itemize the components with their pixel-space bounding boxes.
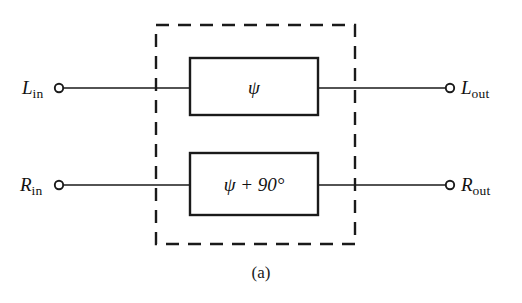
block-top-label: ψ bbox=[190, 78, 318, 97]
terminal-symbol-l-in: L bbox=[22, 77, 33, 98]
terminal-subscript-r-in: in bbox=[32, 183, 43, 198]
figure-caption: (a) bbox=[0, 264, 522, 281]
terminal-label-l-in: Lin bbox=[22, 78, 43, 100]
terminal-symbol-r-in: R bbox=[20, 174, 32, 195]
terminal-symbol-r-out: R bbox=[461, 174, 473, 195]
terminal-node-r-in bbox=[55, 181, 63, 189]
diagram-canvas bbox=[0, 0, 522, 303]
figure-block-diagram: Lin Rin Lout Rout ψ ψ + 90° (a) bbox=[0, 0, 522, 303]
terminal-node-l-out bbox=[446, 84, 454, 92]
terminal-node-l-in bbox=[55, 84, 63, 92]
terminal-label-r-in: Rin bbox=[20, 175, 43, 197]
terminal-label-l-out: Lout bbox=[461, 78, 489, 100]
terminal-subscript-l-in: in bbox=[33, 86, 44, 101]
terminal-label-r-out: Rout bbox=[461, 175, 490, 197]
block-bottom-label: ψ + 90° bbox=[190, 175, 318, 194]
terminal-symbol-l-out: L bbox=[461, 77, 472, 98]
terminal-subscript-r-out: out bbox=[473, 183, 491, 198]
terminal-node-r-out bbox=[446, 181, 454, 189]
terminal-subscript-l-out: out bbox=[472, 86, 490, 101]
block-top-label-text: ψ bbox=[248, 77, 260, 98]
block-bottom-label-text: ψ + 90° bbox=[224, 174, 285, 195]
